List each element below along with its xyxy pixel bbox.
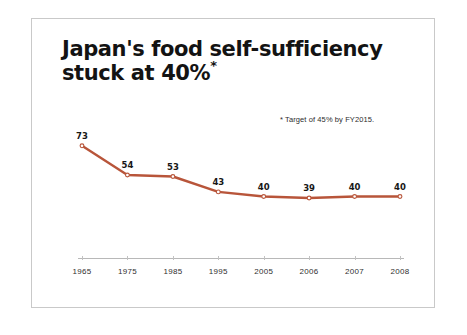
data-point-marker <box>171 175 175 179</box>
x-axis-tick-label: 1975 <box>118 267 137 276</box>
x-axis-tick <box>173 256 174 260</box>
x-axis-tick-label: 1965 <box>73 267 92 276</box>
data-point-label: 54 <box>121 160 133 170</box>
x-axis-tick-label: 2008 <box>391 267 410 276</box>
x-axis-tick <box>127 256 128 260</box>
x-axis-tick-label: 2006 <box>300 267 319 276</box>
line-series-svg <box>32 19 436 309</box>
data-point-label: 40 <box>258 182 270 192</box>
slide-frame: Japan's food self-sufficiency stuck at 4… <box>31 18 435 308</box>
data-point-label: 39 <box>303 183 315 193</box>
x-axis-tick <box>264 256 265 260</box>
data-point-marker <box>126 173 130 177</box>
x-axis-tick-label: 1995 <box>209 267 228 276</box>
data-point-label: 53 <box>167 162 179 172</box>
x-axis-tick <box>355 256 356 260</box>
data-point-marker <box>353 195 357 199</box>
x-axis-tick-label: 2005 <box>254 267 273 276</box>
data-point-label: 43 <box>212 177 224 187</box>
data-point-marker <box>307 196 311 200</box>
data-point-marker <box>216 190 220 194</box>
data-point-marker <box>398 195 402 199</box>
x-axis-tick-label: 2007 <box>345 267 364 276</box>
x-axis-tick-label: 1985 <box>163 267 182 276</box>
data-point-marker <box>80 144 84 148</box>
data-point-label: 73 <box>76 131 88 141</box>
x-axis-tick <box>309 256 310 260</box>
data-point-label: 40 <box>349 182 361 192</box>
x-axis-tick <box>218 256 219 260</box>
chart-plot-area: 7354534340394040 19651975198519952005200… <box>32 19 436 309</box>
series-markers <box>80 144 402 200</box>
x-axis-tick <box>82 256 83 260</box>
data-point-marker <box>262 195 266 199</box>
data-point-label: 40 <box>394 182 406 192</box>
x-axis-tick <box>400 256 401 260</box>
